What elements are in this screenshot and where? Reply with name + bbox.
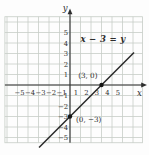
x-tick-label: 5 (116, 89, 120, 97)
x-tick-label: −3 (35, 89, 45, 97)
x-tick-label: 4 (105, 89, 109, 97)
coordinate-plane: −5−4−3−2−11234554321−1−2−3−4−5xy(3, 0)(0… (0, 0, 149, 155)
y-tick-label: 4 (64, 40, 68, 48)
y-tick-label: −1 (58, 92, 68, 100)
plotted-line (39, 52, 134, 147)
data-point (68, 114, 72, 118)
x-tick-label: −2 (46, 89, 56, 97)
point-label: (3, 0) (78, 71, 98, 80)
x-axis-arrowhead-icon (141, 83, 147, 88)
x-tick-label: 2 (84, 89, 88, 97)
y-tick-label: 2 (64, 61, 68, 69)
y-tick-label: −2 (58, 103, 68, 111)
x-tick-label: −4 (25, 89, 35, 97)
graph-figure: −5−4−3−2−11234554321−1−2−3−4−5xy(3, 0)(0… (0, 0, 149, 155)
equation-label: x − 3 = y (77, 34, 129, 44)
y-axis-label: y (62, 3, 68, 13)
x-axis-label: x (137, 88, 142, 98)
point-label: (0, −3) (76, 115, 102, 124)
y-tick-label: 3 (64, 50, 68, 58)
y-tick-label: 5 (64, 29, 68, 37)
x-tick-label: −5 (14, 89, 24, 97)
x-tick-label: 1 (74, 89, 78, 97)
data-point (99, 83, 103, 87)
y-tick-label: −5 (58, 134, 68, 142)
y-axis-arrowhead-icon (68, 9, 73, 15)
y-tick-label: 1 (64, 71, 68, 79)
